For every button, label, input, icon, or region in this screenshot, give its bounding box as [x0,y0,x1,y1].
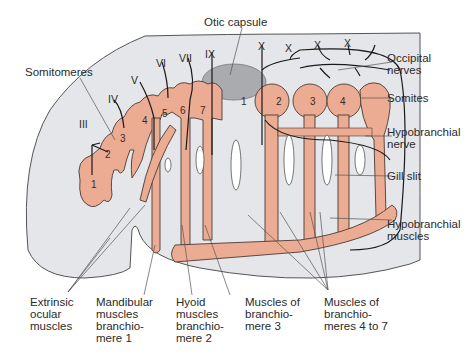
label-line: branchio- [245,308,300,320]
label-line: branchio- [324,308,388,320]
label-line: muscles [387,230,461,242]
somitomere-num-3: 3 [120,133,126,144]
label-line: mere 1 [96,332,153,344]
label-line: muscles [30,320,73,332]
label-line: muscles [176,308,224,320]
label-somitomeres: Somitomeres [25,66,93,78]
somite-num-1: 1 [241,96,247,107]
somite-num-3: 3 [310,96,316,107]
nerve-label-iii: III [79,118,88,130]
somite-bridge [278,128,372,136]
somitomere-num-4: 4 [142,115,148,126]
nerve-label-vi: VI [156,57,166,69]
somitomere-num-2: 2 [105,149,111,160]
nerve-label-x3: X [314,39,321,51]
somite-num-4: 4 [340,96,346,107]
label-line: nerves [387,64,431,76]
label-hypobranchial-nerve: Hypobranchial nerve [387,126,461,150]
label-line: branchio- [176,320,224,332]
label-hypobranchial-muscles: Hypobranchial muscles [387,218,461,242]
label-line: Hypobranchial [387,218,461,230]
label-line: nerve [387,138,461,150]
label-hyoid-muscles: Hyoid muscles branchio- mere 2 [176,296,224,344]
nerve-label-vii: VII [179,52,192,64]
nerve-label-iv: IV [108,93,118,105]
nerve-label-v: V [131,74,138,86]
label-mandibular-muscles: Mandibular muscles branchio- mere 1 [96,296,153,344]
mandibular-arch-muscle [152,118,160,253]
label-somites: Somites [387,92,429,104]
label-line: Occipital [387,52,431,64]
somitomere-num-6: 6 [180,105,186,116]
label-line: Muscles of [324,296,388,308]
label-branchiomeres-4-7-muscles: Muscles of branchio- meres 4 to 7 [324,296,388,332]
label-gill-slit: Gill slit [387,170,421,182]
label-line: Extrinsic [30,296,73,308]
label-line: muscles [96,308,153,320]
nerve-label-x2: X [285,42,292,54]
label-line: mere 2 [176,332,224,344]
label-occipital-nerves: Occipital nerves [387,52,431,76]
somite-num-2: 2 [276,96,282,107]
label-line: Muscles of [245,296,300,308]
somitomere-num-7: 7 [200,105,206,116]
label-line: mere 3 [245,320,300,332]
nerve-label-x4: X [344,37,351,49]
somitomere-num-5: 5 [162,108,168,119]
label-line: branchio- [96,320,153,332]
somitomere-num-1: 1 [91,179,97,190]
label-line: Hyoid [176,296,224,308]
nerve-label-ix: IX [205,48,215,60]
label-otic-capsule: Otic capsule [204,16,267,28]
label-extrinsic-ocular-muscles: Extrinsic ocular muscles [30,296,73,332]
label-branchiomere-3-muscles: Muscles of branchio- mere 3 [245,296,300,332]
label-line: Hypobranchial [387,126,461,138]
label-line: Mandibular [96,296,153,308]
label-line: meres 4 to 7 [324,320,388,332]
nerve-label-x1: X [258,40,265,52]
label-line: ocular [30,308,73,320]
